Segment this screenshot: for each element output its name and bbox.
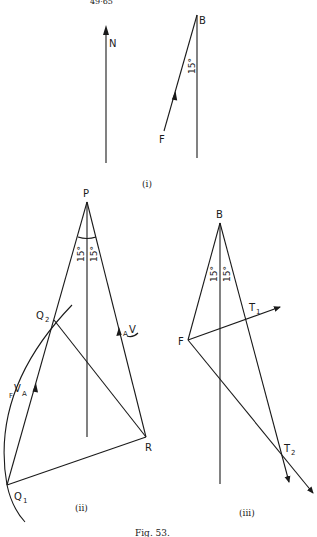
b-label: B (216, 209, 223, 220)
f-t1-line (188, 307, 280, 340)
fva-main: V (14, 383, 21, 394)
av-prefix: A (123, 330, 128, 338)
av-arrowhead-icon (116, 327, 121, 336)
q1-label: Q (14, 491, 22, 502)
q1-r-line (7, 437, 146, 485)
t1-label: T (248, 302, 256, 313)
panel-i: N B F 15° (i) (103, 15, 206, 189)
panel-i-label: (i) (142, 179, 152, 189)
f-label: F (178, 336, 184, 347)
fva-prefix: F (9, 392, 13, 400)
panel-ii: P Q 2 Q 1 R F V A A V 15° 15° (ii) (4, 188, 152, 522)
f-label: F (159, 134, 165, 145)
p-q1-line (7, 202, 87, 485)
panel-ii-label: (ii) (75, 503, 88, 513)
t2-subscript: 2 (291, 449, 295, 457)
fva-subscript: A (22, 390, 27, 398)
t1-subscript: 1 (256, 308, 260, 316)
panel-iii: B F T 1 T 2 15° 15° (iii) (178, 209, 313, 518)
page-reference: 49·65 (90, 0, 113, 6)
arc-line (4, 305, 72, 522)
north-arrowhead-icon (103, 25, 109, 35)
q2-r-line (54, 320, 146, 437)
q2-label: Q (36, 310, 44, 321)
b-t-line (220, 223, 289, 482)
av-main: V (129, 324, 136, 335)
angle-label: 15° (187, 58, 197, 74)
north-label: N (109, 38, 116, 49)
p-label: P (83, 188, 89, 199)
angle-right-label: 15° (222, 266, 232, 282)
t2-label: T (283, 443, 291, 454)
b-label: B (199, 15, 206, 26)
r-label: R (145, 442, 152, 453)
q2-subscript: 2 (45, 316, 49, 324)
figure-53-diagram: 49·65 N B F 15° (i) P (0, 0, 317, 537)
angle-left-label: 15° (209, 266, 219, 282)
figure-caption: Fig. 53. (135, 528, 170, 537)
panel-iii-label: (iii) (239, 508, 255, 518)
q1-subscript: 1 (23, 497, 27, 505)
angle-left-label: 15° (76, 246, 86, 262)
angle-right-label: 15° (89, 246, 99, 262)
f-t2-line (188, 340, 313, 493)
